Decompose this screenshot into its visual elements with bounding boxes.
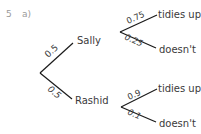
question-number: 5	[6, 9, 12, 19]
prob-sally-tidies: 0.75	[125, 9, 146, 26]
prob-sally-doesnt: 0.25	[123, 32, 144, 49]
sally-second-stage: 0.75 0.25 tidies up doesn't	[120, 9, 201, 55]
prob-rashid-doesnt: 0.1	[126, 107, 142, 122]
node-rashid: Rashid	[75, 95, 109, 106]
outcome-sally-doesnt: doesn't	[159, 44, 196, 55]
outcome-rashid-tidies: tidies up	[158, 83, 201, 94]
outcome-rashid-doesnt: doesn't	[159, 118, 196, 129]
prob-rashid-tidies: 0.9	[126, 87, 142, 102]
probability-tree-diagram: 5 a) 0.5 0.5 Sally Rashid 0.75 0.25 tidi…	[0, 0, 201, 134]
outcome-sally-tidies: tidies up	[158, 9, 201, 20]
node-sally: Sally	[77, 35, 101, 46]
rashid-second-stage: 0.9 0.1 tidies up doesn't	[121, 83, 201, 129]
question-part: a)	[22, 9, 31, 19]
first-stage-branches: 0.5 0.5 Sally Rashid	[40, 35, 109, 106]
prob-rashid: 0.5	[46, 84, 64, 101]
